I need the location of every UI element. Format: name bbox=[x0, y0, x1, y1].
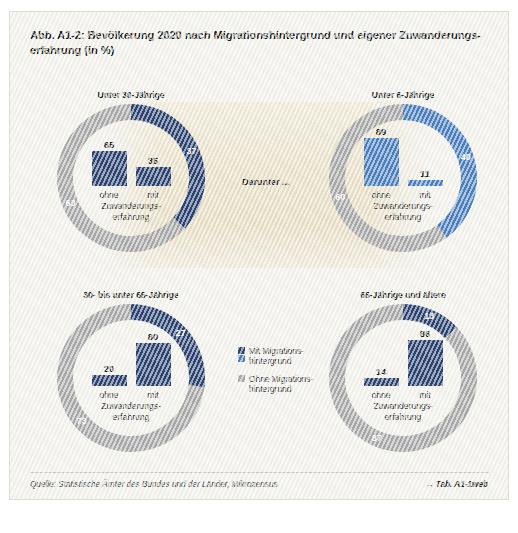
bar-category-label: mit bbox=[408, 390, 443, 400]
bar-axis-sublabel-line2: erfahrung bbox=[351, 412, 455, 423]
bar-category-label: ohne bbox=[92, 190, 127, 200]
bar-value-label: 35 bbox=[148, 157, 158, 166]
bar-axis-sublabel-line2: erfahrung bbox=[79, 412, 183, 423]
donut-segment-value: 13 bbox=[422, 311, 436, 321]
legend-label: Ohne Migrations- hintergrund bbox=[249, 374, 313, 395]
donut-chart: 37636535ohnemitZuwanderungs-erfahrung bbox=[57, 104, 205, 252]
legend-swatch-gray-icon bbox=[238, 375, 245, 382]
bar-column: 14 bbox=[364, 368, 399, 386]
figure-title-text: Bevölkerung 2020 nach Migrationshintergr… bbox=[30, 29, 481, 56]
bar-category-label: ohne bbox=[364, 390, 399, 400]
bar-column: 35 bbox=[136, 157, 171, 186]
donut-segment-value: 37 bbox=[185, 146, 199, 156]
bar-axis-sublabel-line1: Zuwanderungs- bbox=[351, 201, 455, 212]
chart-panel-unter-30: Unter 30-Jährige37636535ohnemitZuwanderu… bbox=[38, 90, 224, 272]
inner-bar-chart: 2080ohnemitZuwanderungs-erfahrung bbox=[79, 326, 183, 430]
donut-segment-value: 87 bbox=[370, 433, 384, 443]
bar-axis-sublabel: Zuwanderungs-erfahrung bbox=[351, 401, 455, 422]
bar-category-label: mit bbox=[136, 190, 171, 200]
legend-swatch-light-blue-icon bbox=[238, 355, 245, 362]
donut-segment-value: 60 bbox=[333, 192, 347, 202]
bar-category-row: ohnemit bbox=[351, 190, 455, 200]
bar-category-label: ohne bbox=[364, 190, 399, 200]
bar bbox=[92, 151, 127, 186]
bar-axis-sublabel: Zuwanderungs-erfahrung bbox=[79, 401, 183, 422]
bar-column: 80 bbox=[136, 333, 171, 386]
legend-label-line1: Ohne Migrations- bbox=[249, 374, 313, 384]
bar-value-label: 86 bbox=[420, 330, 430, 339]
bar-column: 89 bbox=[364, 128, 399, 186]
chart-title: 65-Jährige und ältere bbox=[310, 290, 496, 300]
footer-divider bbox=[30, 472, 490, 473]
legend-label: Mit Migrations- hintergrund bbox=[249, 346, 304, 367]
chart-panel-65-und-aelter: 65-Jährige und ältere13871486ohnemitZuwa… bbox=[310, 290, 496, 472]
bar bbox=[408, 340, 443, 386]
bar-value-label: 80 bbox=[148, 333, 158, 342]
legend-swatch-dark-blue-icon bbox=[238, 347, 245, 354]
bar-group: 2080 bbox=[79, 328, 183, 386]
legend-label-line1: Mit Migrations- bbox=[249, 346, 304, 356]
bar-column: 11 bbox=[408, 170, 443, 186]
legend-label-line2: hintergrund bbox=[249, 384, 291, 394]
bar bbox=[92, 375, 127, 386]
inner-bar-chart: 1486ohnemitZuwanderungs-erfahrung bbox=[351, 326, 455, 430]
bar-group: 8911 bbox=[351, 128, 455, 186]
source-note: Quelle: Statistische Ämter des Bundes un… bbox=[30, 480, 278, 489]
bar-category-row: ohnemit bbox=[79, 190, 183, 200]
bar-column: 86 bbox=[408, 330, 443, 386]
table-reference-link[interactable]: → Tab. A1-1web bbox=[425, 480, 488, 489]
center-note: Darunter ... bbox=[242, 177, 290, 187]
bar-axis-sublabel: Zuwanderungs-erfahrung bbox=[79, 201, 183, 222]
bar bbox=[364, 138, 399, 186]
bar-value-label: 89 bbox=[376, 128, 386, 137]
chart-panel-unter-6: Unter 6-Jährige40608911ohnemitZuwanderun… bbox=[310, 90, 496, 272]
legend-item: Ohne Migrations- hintergrund bbox=[238, 374, 330, 395]
chart-title: Unter 6-Jährige bbox=[310, 90, 496, 100]
donut-segment-value: 40 bbox=[459, 152, 473, 162]
legend-swatch-group bbox=[238, 374, 245, 382]
donut-chart: 27732080ohnemitZuwanderungs-erfahrung bbox=[57, 304, 205, 452]
bar-group: 1486 bbox=[351, 328, 455, 386]
bar bbox=[364, 378, 399, 386]
bar-value-label: 20 bbox=[104, 365, 114, 374]
donut-segment-value: 27 bbox=[174, 328, 188, 338]
bar bbox=[408, 180, 443, 186]
legend: Mit Migrations- hintergrund Ohne Migrati… bbox=[238, 346, 330, 402]
bar-value-label: 65 bbox=[104, 141, 114, 150]
bar bbox=[136, 343, 171, 386]
bar-value-label: 11 bbox=[420, 170, 430, 179]
legend-item: Mit Migrations- hintergrund bbox=[238, 346, 330, 367]
bar-axis-sublabel-line1: Zuwanderungs- bbox=[79, 201, 183, 212]
donut-chart: 13871486ohnemitZuwanderungs-erfahrung bbox=[329, 304, 477, 452]
bar-axis-sublabel-line1: Zuwanderungs- bbox=[351, 401, 455, 412]
donut-segment-value: 73 bbox=[74, 416, 88, 426]
figure-container: Abb. A1-2: Bevölkerung 2020 nach Migrati… bbox=[9, 11, 509, 500]
bar bbox=[136, 167, 171, 186]
bar-axis-sublabel-line2: erfahrung bbox=[351, 212, 455, 223]
bar-column: 65 bbox=[92, 141, 127, 186]
bar-category-label: ohne bbox=[92, 390, 127, 400]
chart-title: Unter 30-Jährige bbox=[38, 90, 224, 100]
bar-category-row: ohnemit bbox=[351, 390, 455, 400]
bar-column: 20 bbox=[92, 365, 127, 386]
bar-axis-sublabel: Zuwanderungs-erfahrung bbox=[351, 201, 455, 222]
bar-group: 6535 bbox=[79, 128, 183, 186]
bar-category-label: mit bbox=[408, 190, 443, 200]
bar-axis-sublabel-line1: Zuwanderungs- bbox=[79, 401, 183, 412]
legend-swatch-group bbox=[238, 346, 245, 362]
donut-chart: 40608911ohnemitZuwanderungs-erfahrung bbox=[329, 104, 477, 252]
bar-value-label: 14 bbox=[376, 368, 386, 377]
bar-category-row: ohnemit bbox=[79, 390, 183, 400]
chart-panel-30-bis-65: 30- bis unter 65-Jährige27732080ohnemitZ… bbox=[38, 290, 224, 472]
figure-label: Abb. A1-2: bbox=[30, 29, 85, 41]
legend-label-line2: hintergrund bbox=[249, 356, 291, 366]
chart-title: 30- bis unter 65-Jährige bbox=[38, 290, 224, 300]
inner-bar-chart: 8911ohnemitZuwanderungs-erfahrung bbox=[351, 126, 455, 230]
inner-bar-chart: 6535ohnemitZuwanderungs-erfahrung bbox=[79, 126, 183, 230]
figure-title: Abb. A1-2: Bevölkerung 2020 nach Migrati… bbox=[30, 28, 492, 58]
bar-axis-sublabel-line2: erfahrung bbox=[79, 212, 183, 223]
donut-segment-value: 63 bbox=[63, 198, 77, 208]
bar-category-label: mit bbox=[136, 390, 171, 400]
